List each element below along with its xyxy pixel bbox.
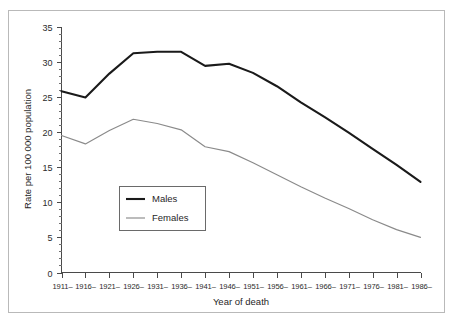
y-tick-label-20: 20 <box>42 128 52 138</box>
y-axis-title: Rate per 100 000 population <box>22 89 33 209</box>
y-tick-label-10: 10 <box>42 198 52 208</box>
x-tick-label-14: 1981– <box>387 282 408 291</box>
series-line-females <box>62 119 421 237</box>
series-line-males <box>62 52 421 182</box>
chart-legend: Males Females <box>120 187 206 231</box>
x-axis-tick-labels: 1911–1916–1921–1926–1931–1936–1941–1946–… <box>52 282 432 291</box>
x-tick-label-13: 1976– <box>363 282 384 291</box>
y-tick-label-35: 35 <box>42 23 52 33</box>
legend-label-females: Females <box>152 212 189 223</box>
x-tick-label-5: 1936– <box>171 282 192 291</box>
x-tick-label-0: 1911– <box>52 282 73 291</box>
y-axis-tick-labels: 05101520253035 <box>42 23 52 279</box>
legend-label-males: Males <box>152 193 178 204</box>
x-tick-label-1: 1916– <box>75 282 96 291</box>
line-chart: 05101520253035 Rate per 100 000 populati… <box>0 0 455 326</box>
x-axis-ticks <box>63 273 422 278</box>
y-axis-group: 05101520253035 Rate per 100 000 populati… <box>22 23 62 279</box>
x-tick-label-15: 1986– <box>411 282 432 291</box>
y-tick-label-25: 25 <box>42 93 52 103</box>
x-tick-label-10: 1961– <box>291 282 312 291</box>
x-tick-label-6: 1941– <box>195 282 216 291</box>
x-tick-label-8: 1951– <box>243 282 264 291</box>
x-tick-label-4: 1931– <box>147 282 168 291</box>
x-tick-label-2: 1921– <box>99 282 120 291</box>
x-tick-label-12: 1971– <box>339 282 360 291</box>
y-axis-major-ticks <box>57 28 62 274</box>
x-axis-title: Year of death <box>213 296 269 307</box>
x-tick-label-11: 1966– <box>315 282 336 291</box>
x-axis-group: 1911–1916–1921–1926–1931–1936–1941–1946–… <box>52 273 432 308</box>
x-tick-label-3: 1926– <box>123 282 144 291</box>
y-tick-label-30: 30 <box>42 58 52 68</box>
y-tick-label-15: 15 <box>42 163 52 173</box>
data-series-group <box>62 52 421 238</box>
x-tick-label-9: 1956– <box>267 282 288 291</box>
figure-container: 05101520253035 Rate per 100 000 populati… <box>0 0 455 326</box>
y-tick-label-5: 5 <box>47 233 52 243</box>
x-tick-label-7: 1946– <box>219 282 240 291</box>
y-tick-label-0: 0 <box>47 269 52 279</box>
